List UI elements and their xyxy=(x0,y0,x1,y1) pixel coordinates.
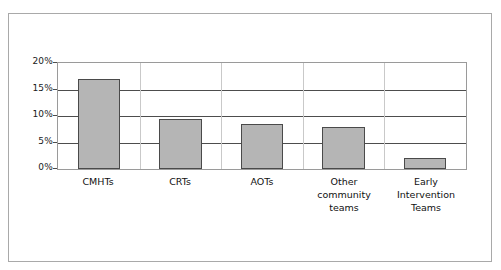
y-axis-tick-label: 10% xyxy=(13,110,53,119)
category-separator xyxy=(303,63,304,169)
chart-image: 0%5%10%15%20% CMHTsCRTsAOTsOther communi… xyxy=(0,0,501,270)
plot-area xyxy=(57,62,467,170)
y-axis-tick-label: 15% xyxy=(13,84,53,93)
category-separator xyxy=(384,63,385,169)
y-axis-tick-label: 20% xyxy=(13,57,53,66)
category-separator xyxy=(140,63,141,169)
x-axis-category-label: CRTs xyxy=(139,173,221,233)
x-axis: CMHTsCRTsAOTsOther community teamsEarly … xyxy=(57,173,467,233)
y-axis-tick-label: 5% xyxy=(13,137,53,146)
y-axis-tick-label: 0% xyxy=(13,163,53,172)
bar xyxy=(404,158,446,169)
x-axis-category-label: Early Intervention Teams xyxy=(385,173,467,233)
x-axis-category-label: AOTs xyxy=(221,173,303,233)
x-axis-category-label: CMHTs xyxy=(57,173,139,233)
category-separator xyxy=(221,63,222,169)
bar xyxy=(322,127,364,169)
bar xyxy=(78,79,120,169)
bar xyxy=(159,119,201,169)
bar xyxy=(241,124,283,169)
bar-chart: 0%5%10%15%20% CMHTsCRTsAOTsOther communi… xyxy=(8,13,492,262)
x-axis-category-label: Other community teams xyxy=(303,173,385,233)
y-axis: 0%5%10%15%20% xyxy=(8,62,53,170)
